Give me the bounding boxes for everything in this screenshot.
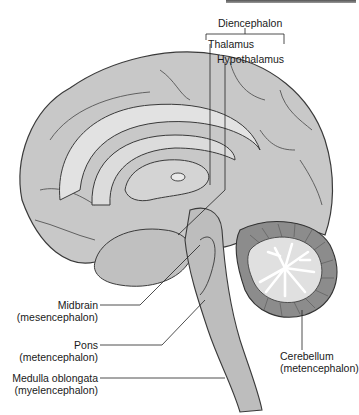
label-medulla-sub: (myelencephalon)	[15, 384, 98, 396]
label-pons: Pons	[74, 339, 98, 351]
label-medulla: Medulla oblongata	[12, 372, 98, 384]
label-cerebellum: Cerebellum	[280, 350, 334, 362]
label-midbrain-sub: (mesencephalon)	[17, 311, 98, 323]
label-thalamus: Thalamus	[208, 38, 254, 50]
label-cerebellum-sub: (metencephalon)	[280, 362, 359, 374]
label-hypothalamus: Hypothalamus	[217, 53, 284, 65]
cerebellum	[236, 222, 337, 318]
label-diencephalon: Diencephalon	[218, 17, 282, 29]
label-pons-sub: (metencephalon)	[19, 351, 98, 363]
label-midbrain: Midbrain	[58, 299, 98, 311]
